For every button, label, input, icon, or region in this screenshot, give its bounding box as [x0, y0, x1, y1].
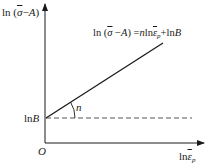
- y-axis-label: ln (σ−A): [2, 7, 39, 18]
- equation-label: ln (σ −A) =nlnεp+lnB: [93, 28, 181, 40]
- intercept-label: lnB: [24, 113, 39, 124]
- origin-label: O: [38, 146, 46, 157]
- slope-label: n: [76, 102, 82, 113]
- x-axis-label: lnεp: [179, 151, 195, 164]
- slope-angle-arc: [71, 102, 75, 118]
- diagram-canvas: [0, 0, 210, 165]
- fit-line: [46, 43, 163, 118]
